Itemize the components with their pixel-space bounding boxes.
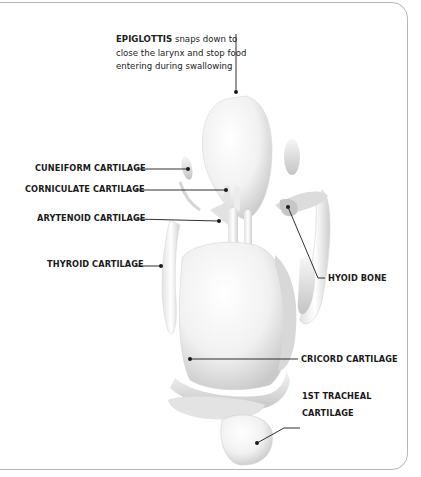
thyroid-cartilage-shape [179, 242, 290, 390]
epiglottis-title: EPIGLOTTIS [116, 34, 172, 44]
label-hyoid-bone: HYOID BONE [328, 273, 387, 284]
label-tracheal-cartilage-line1: 1ST TRACHEAL [302, 391, 371, 402]
label-tracheal-cartilage-line2: CARTILAGE [302, 408, 354, 419]
label-corniculate-cartilage: CORNICULATE CARTILAGE [25, 184, 145, 195]
label-arytenoid-cartilage: ARYTENOID CARTILAGE [37, 213, 145, 224]
tracheal-cartilage-shape [221, 415, 272, 465]
thyroid-wing-shape [162, 220, 180, 334]
label-cuneiform-cartilage: CUNEIFORM CARTILAGE [35, 163, 146, 174]
epiglottis-callout: EPIGLOTTIS snaps down to close the laryn… [116, 33, 232, 74]
label-cricoid-cartilage: CRICORD CARTILAGE [301, 354, 398, 365]
right-cuneiform-shape [284, 139, 300, 175]
label-thyroid-cartilage: THYROID CARTILAGE [47, 259, 144, 270]
